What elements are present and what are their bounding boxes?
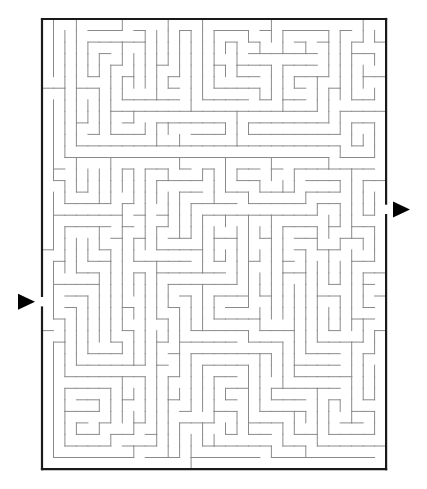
maze — [0, 0, 427, 489]
exit-arrow-icon — [393, 201, 410, 217]
maze-walls — [42, 19, 386, 469]
entrance-arrow-icon — [18, 294, 35, 310]
